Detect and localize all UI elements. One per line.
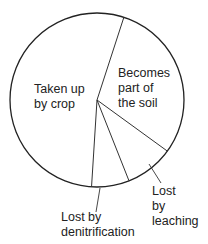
label-line: by — [152, 199, 199, 214]
label-lost-by-leaching: Lost by leaching — [152, 184, 199, 229]
denitrification-leader — [96, 188, 100, 212]
label-line: denitrification — [61, 225, 135, 240]
label-line: Lost by — [61, 210, 135, 225]
label-becomes-part-of-soil: Becomes part of the soil — [118, 66, 170, 111]
label-line: Lost — [152, 184, 199, 199]
leaching-leader — [149, 164, 161, 183]
label-line: the soil — [118, 96, 170, 111]
label-line: part of — [118, 81, 170, 96]
label-line: Taken up — [34, 82, 85, 97]
label-line: Becomes — [118, 66, 170, 81]
label-taken-up-by-crop: Taken up by crop — [34, 82, 85, 112]
label-line: by crop — [34, 97, 85, 112]
label-line: leaching — [152, 214, 199, 229]
label-lost-by-denitrification: Lost by denitrification — [61, 210, 135, 240]
